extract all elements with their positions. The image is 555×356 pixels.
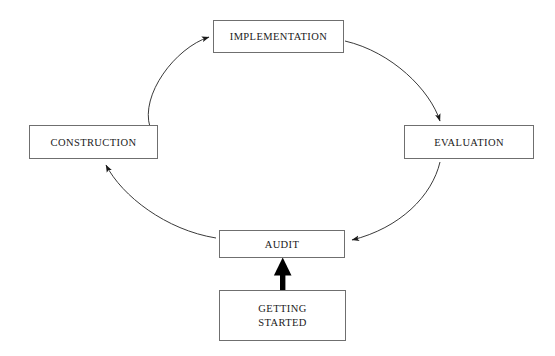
node-getting-started[interactable]: GETTING STARTED (219, 290, 346, 341)
node-evaluation-label: EVALUATION (434, 136, 504, 149)
node-implementation[interactable]: IMPLEMENTATION (213, 20, 344, 53)
node-implementation-label: IMPLEMENTATION (230, 30, 328, 43)
node-audit-label: AUDIT (265, 238, 300, 251)
connector-construction-to-implementation (148, 37, 209, 127)
node-construction[interactable]: CONSTRUCTION (29, 125, 158, 159)
connector-getting-started-to-audit (274, 258, 292, 291)
connector-implementation-to-evaluation (345, 41, 440, 121)
connector-evaluation-to-audit (352, 162, 440, 240)
node-getting-started-label: GETTING STARTED (258, 302, 307, 330)
node-audit[interactable]: AUDIT (219, 230, 345, 258)
process-cycle-diagram: IMPLEMENTATION EVALUATION AUDIT CONSTRUC… (0, 0, 555, 356)
node-construction-label: CONSTRUCTION (51, 136, 137, 149)
connector-audit-to-construction (106, 165, 216, 238)
node-evaluation[interactable]: EVALUATION (404, 125, 534, 159)
